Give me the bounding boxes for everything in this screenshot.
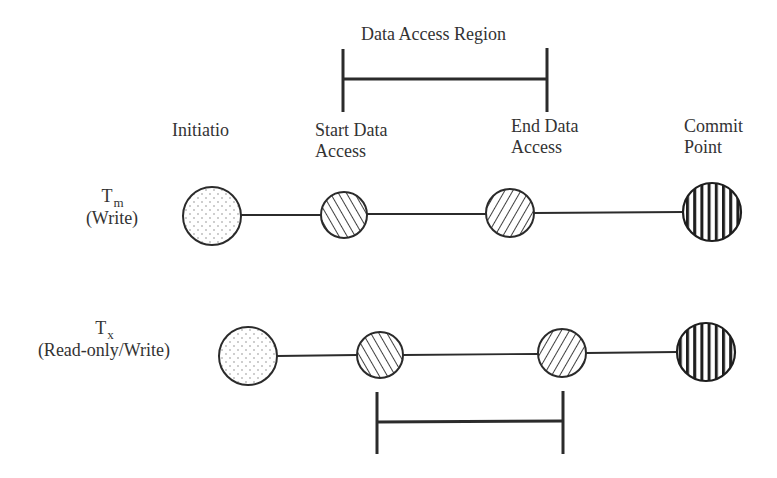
transaction-symbol-tm: Tm (62, 186, 162, 208)
transaction-timeline-diagram (0, 0, 777, 478)
end-data-access-node (486, 189, 534, 237)
start-data-access-node (357, 332, 403, 378)
commit-point-line2: Point (684, 137, 743, 158)
transaction-mode-tm: (Write) (62, 208, 162, 229)
end-data-access-line1: End Data (511, 116, 578, 137)
initiation-label: Initiatio (172, 120, 229, 141)
row-tm-timeline (183, 183, 741, 245)
commit-point-line1: Commit (684, 116, 743, 137)
end-data-access-line2: Access (511, 137, 578, 158)
connector-line (403, 354, 538, 355)
end-data-access-label: End Data Access (511, 116, 578, 158)
connector-line (534, 212, 683, 213)
transaction-mode-tx: (Read-only/Write) (18, 340, 190, 361)
end-data-access-node (538, 329, 586, 377)
top-region-bracket (343, 48, 547, 112)
transaction-symbol-tx: Tx (18, 318, 190, 340)
initiation-node (183, 187, 241, 245)
start-data-access-label: Start Data Access (315, 120, 387, 162)
connector-line (586, 352, 677, 353)
commit-point-label: Commit Point (684, 116, 743, 158)
row-label-tm: Tm (Write) (62, 186, 162, 229)
initiation-node (219, 327, 277, 385)
transaction-subscript: m (113, 195, 123, 210)
row-label-tx: Tx (Read-only/Write) (18, 318, 190, 361)
bottom-region-bracket (377, 391, 563, 454)
start-data-access-line1: Start Data (315, 120, 387, 141)
connector-line (277, 355, 357, 356)
start-data-access-node (321, 192, 367, 238)
commit-point-node (677, 323, 735, 381)
start-data-access-line2: Access (315, 141, 387, 162)
transaction-subscript: x (107, 327, 114, 342)
commit-point-node (683, 183, 741, 241)
data-access-region-label: Data Access Region (361, 24, 506, 45)
row-tx-timeline (219, 323, 735, 385)
